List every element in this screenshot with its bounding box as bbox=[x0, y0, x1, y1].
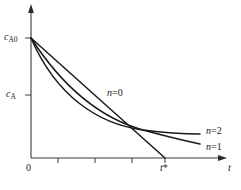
concentration-vs-time-chart: cA0 cA 0 t t* n=0 n=2 n=1 bbox=[0, 0, 241, 190]
curve-n0 bbox=[31, 38, 165, 158]
n0-value: 0 bbox=[118, 87, 123, 98]
curve-label-n0: n=0 bbox=[107, 88, 123, 98]
x-axis-ticks bbox=[58, 158, 165, 163]
curve-label-n1: n=1 bbox=[206, 142, 222, 152]
y-axis-ticks bbox=[25, 38, 31, 95]
x-axis-tick-label-t-star: t* bbox=[160, 163, 168, 173]
n2-value: 2 bbox=[217, 125, 222, 136]
cA-subscript: A bbox=[10, 92, 15, 101]
origin-label: 0 bbox=[26, 163, 31, 173]
y-axis-title-cA: cA bbox=[6, 89, 16, 99]
x-axis bbox=[31, 155, 227, 161]
y-axis-tick-label-cA0: cA0 bbox=[4, 32, 18, 42]
curve-label-n2: n=2 bbox=[206, 126, 222, 136]
cA0-subscript: A0 bbox=[8, 35, 17, 44]
x-axis-title-t: t bbox=[228, 163, 231, 173]
n1-value: 1 bbox=[217, 141, 222, 152]
y-axis bbox=[28, 4, 34, 158]
t-star-asterisk: * bbox=[163, 162, 168, 173]
